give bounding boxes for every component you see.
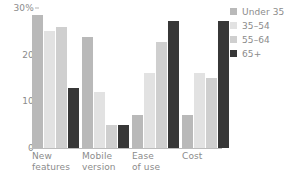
bar (68, 88, 79, 148)
legend-swatch-icon (230, 36, 237, 43)
legend-item[interactable]: 35–54 (230, 19, 294, 32)
legend-item[interactable]: 55–64 (230, 33, 294, 46)
bar-group (32, 8, 79, 148)
legend-item-label: 35–54 (242, 21, 270, 31)
x-axis-label: New features (32, 151, 70, 172)
x-axis-label: Mobile version (82, 151, 116, 172)
plot-area (30, 8, 220, 148)
legend-swatch-icon (230, 50, 237, 57)
legend-swatch-icon (230, 22, 237, 29)
legend-swatch-icon (230, 8, 237, 15)
bar (118, 125, 129, 148)
bar (44, 31, 55, 148)
bar (144, 73, 155, 148)
x-axis-label: Cost (182, 151, 202, 162)
bar (156, 42, 167, 148)
legend-item-label: 65+ (242, 49, 261, 59)
legend-item[interactable]: 65+ (230, 47, 294, 60)
bar (132, 115, 143, 148)
bar-chart: 0102030% New featuresMobile versionEase … (0, 0, 294, 179)
legend-item[interactable]: Under 35 (230, 5, 294, 18)
bar-group (82, 8, 129, 148)
bar-group (182, 8, 229, 148)
bar-group (132, 8, 179, 148)
bar (94, 92, 105, 148)
x-axis-line (30, 148, 222, 149)
bar (206, 78, 217, 148)
x-axis-label: Ease of use (132, 151, 160, 172)
legend-item-label: Under 35 (242, 7, 284, 17)
bar (168, 21, 179, 148)
legend-item-label: 55–64 (242, 35, 270, 45)
bar (194, 73, 205, 148)
bar (56, 27, 67, 148)
bar (32, 15, 43, 148)
bar (218, 21, 229, 148)
bar (82, 37, 93, 148)
bar (106, 125, 117, 148)
bar (182, 115, 193, 148)
legend: Under 3535–5455–6465+ (230, 5, 294, 61)
